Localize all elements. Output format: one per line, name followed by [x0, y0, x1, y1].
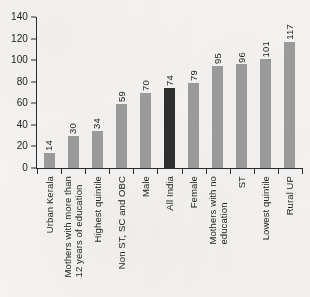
x-axis-tick-mark [109, 169, 110, 174]
bar-rect [44, 153, 55, 168]
x-axis-tick-label: Highest quintile [85, 176, 109, 297]
y-axis-tick-mark [31, 124, 36, 125]
x-axis-tick-label: Female [182, 176, 206, 297]
x-axis-tick-mark [61, 169, 62, 174]
bar-rect [140, 93, 151, 169]
x-axis-tick-mark [37, 169, 38, 174]
x-axis-tick-label-text: ST [236, 176, 247, 188]
x-axis-tick-label-text: Non ST, SC and OBC [116, 176, 127, 269]
bar-rect [236, 64, 247, 168]
bar-6[interactable]: 79 [188, 17, 199, 168]
bar-rect [92, 131, 103, 168]
bar-value-label: 34 [92, 118, 102, 129]
x-axis-tick-label-text: Highest quintile [92, 176, 103, 243]
bar-value-label: 14 [44, 140, 54, 151]
x-axis-tick-mark [230, 169, 231, 174]
bar-value-label: 30 [68, 123, 78, 134]
x-axis-tick-mark [302, 169, 303, 174]
bar-9[interactable]: 101 [260, 17, 271, 168]
y-axis-tick-label: 120 [11, 34, 28, 44]
bar-rect [68, 136, 79, 168]
bar-value-label: 59 [117, 91, 127, 102]
x-axis-tick-label-text: Lowest quintile [260, 176, 271, 240]
y-axis-tick-label: 100 [11, 55, 28, 65]
bar-10[interactable]: 117 [284, 17, 295, 168]
x-axis-tick-label: Urban Kerala [37, 176, 61, 297]
x-axis-tick-label: Lowest quintile [254, 176, 278, 297]
bar-0[interactable]: 14 [44, 17, 55, 168]
y-axis-tick-label: 80 [17, 77, 28, 87]
bar-2[interactable]: 34 [92, 17, 103, 168]
y-axis-tick-mark [31, 17, 36, 18]
y-axis: 020406080100120140 [0, 0, 32, 172]
x-axis-tick-label: Mothers with more than 12 years of educa… [61, 176, 85, 297]
x-axis-tick-mark [254, 169, 255, 174]
plot-area: 143034597074799596101117 [37, 17, 302, 168]
bar-3[interactable]: 59 [116, 17, 127, 168]
x-axis: Urban KeralaMothers with more than 12 ye… [37, 176, 302, 297]
x-axis-tick-label-text: Rural UP [284, 176, 295, 215]
bar-rect [188, 83, 199, 168]
x-axis-tick-label: Mothers with no education [206, 176, 230, 297]
x-axis-tick-mark [278, 169, 279, 174]
x-axis-tick-label: Male [133, 176, 157, 297]
x-axis-tick-label: Non ST, SC and OBC [109, 176, 133, 297]
x-axis-tick-mark [182, 169, 183, 174]
y-axis-tick-mark [31, 60, 36, 61]
bar-value-label: 74 [165, 75, 175, 86]
x-axis-tick-label-text: Female [188, 176, 199, 208]
bar-value-label: 95 [213, 53, 223, 64]
bar-rect [116, 104, 127, 168]
y-axis-tick-mark [31, 81, 36, 82]
bar-rect [212, 66, 223, 168]
x-axis-tick-mark [85, 169, 86, 174]
y-axis-tick-mark [31, 103, 36, 104]
x-axis-tick-label-text: Mothers with no education [207, 176, 229, 245]
x-axis-tick-mark [157, 169, 158, 174]
y-axis-tick-label: 60 [17, 98, 28, 108]
bar-5[interactable]: 74 [164, 17, 175, 168]
y-axis-tick-label: 20 [17, 141, 28, 151]
x-axis-line [36, 168, 303, 169]
bar-rect [284, 42, 295, 168]
bar-value-label: 117 [285, 24, 295, 40]
bar-rect [260, 59, 271, 168]
x-axis-tick-mark [206, 169, 207, 174]
bar-value-label: 101 [261, 41, 271, 57]
x-axis-tick-label: All India [157, 176, 181, 297]
y-axis-tick-mark [31, 38, 36, 39]
bar-1[interactable]: 30 [68, 17, 79, 168]
x-axis-tick-label: Rural UP [278, 176, 302, 297]
y-axis-tick-label: 0 [22, 163, 28, 173]
x-axis-tick-label-text: All India [164, 176, 175, 211]
bar-7[interactable]: 95 [212, 17, 223, 168]
bar-8[interactable]: 96 [236, 17, 247, 168]
y-axis-tick-mark [31, 168, 36, 169]
x-axis-tick-mark [133, 169, 134, 174]
x-axis-tick-label-text: Urban Kerala [44, 176, 55, 233]
bar-value-label: 96 [237, 52, 247, 63]
x-axis-tick-label-text: Mothers with more than 12 years of educa… [62, 176, 84, 277]
y-axis-tick-mark [31, 146, 36, 147]
y-axis-tick-label: 140 [11, 12, 28, 22]
bar-rect [164, 88, 175, 168]
bar-chart: 020406080100120140 143034597074799596101… [0, 0, 310, 297]
bar-value-label: 70 [141, 80, 151, 91]
bar-value-label: 79 [189, 70, 199, 81]
y-axis-tick-label: 40 [17, 120, 28, 130]
x-axis-tick-label: ST [230, 176, 254, 297]
x-axis-tick-label-text: Male [140, 176, 151, 197]
bar-4[interactable]: 70 [140, 17, 151, 168]
